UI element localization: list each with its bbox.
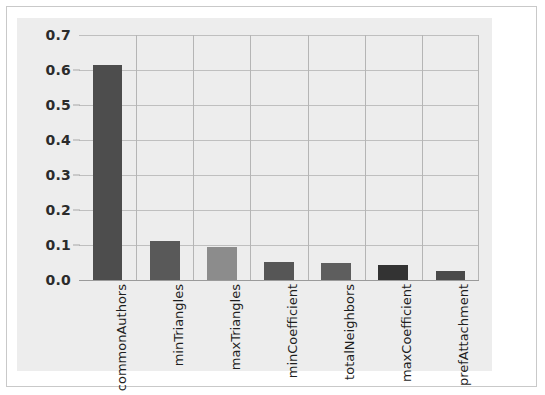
x-tick-label-maxCoefficient: maxCoefficient [399, 284, 414, 382]
y-tick-label: 0.3 [46, 167, 71, 183]
y-tick-label: 0.6 [46, 62, 71, 78]
x-tick-label-totalNeighbors: totalNeighbors [342, 284, 357, 380]
y-tick-label: 0.4 [46, 132, 71, 148]
y-tick-mark [73, 70, 80, 71]
x-gridline [308, 35, 309, 280]
x-tick-label-minTriangles: minTriangles [171, 284, 186, 366]
y-gridline [79, 175, 479, 176]
bar-minCoefficient[interactable] [264, 262, 294, 280]
y-gridline [79, 245, 479, 246]
x-tick-label-commonAuthors: commonAuthors [114, 284, 129, 391]
page-sheet: 0.00.10.20.30.40.50.60.7 commonAuthorsmi… [6, 6, 537, 387]
y-tick-mark [73, 245, 80, 246]
x-axis-labels: commonAuthorsminTrianglesmaxTrianglesmin… [79, 284, 479, 370]
x-gridline [250, 35, 251, 280]
bar-maxTriangles[interactable] [207, 247, 237, 280]
y-gridline [79, 210, 479, 211]
x-gridline [193, 35, 194, 280]
plot-area [79, 35, 479, 280]
x-gridline [478, 35, 479, 280]
y-axis: 0.00.10.20.30.40.50.60.7 [17, 35, 71, 280]
x-gridline [422, 35, 423, 280]
y-tick-mark [73, 175, 80, 176]
y-gridline [79, 105, 479, 106]
y-gridline [79, 35, 479, 36]
y-tick-mark [73, 140, 80, 141]
y-tick-label: 0.5 [46, 97, 71, 113]
x-tick-label-maxTriangles: maxTriangles [228, 284, 243, 370]
y-tick-mark [73, 210, 80, 211]
x-gridline [136, 35, 137, 280]
y-gridline [79, 70, 479, 71]
bar-minTriangles[interactable] [150, 241, 180, 280]
y-tick-label: 0.0 [46, 272, 71, 288]
bar-prefAttachment[interactable] [436, 271, 466, 280]
x-tick-label-minCoefficient: minCoefficient [285, 284, 300, 378]
chart-figure: 0.00.10.20.30.40.50.60.7 commonAuthorsmi… [17, 18, 492, 371]
bar-totalNeighbors[interactable] [321, 263, 351, 281]
bar-maxCoefficient[interactable] [378, 265, 408, 280]
y-gridline [79, 280, 479, 281]
x-gridline [365, 35, 366, 280]
y-tick-label: 0.2 [46, 202, 71, 218]
bar-commonAuthors[interactable] [93, 65, 123, 280]
y-tick-label: 0.7 [46, 27, 71, 43]
y-tick-mark [73, 105, 80, 106]
x-tick-label-prefAttachment: prefAttachment [456, 284, 471, 386]
y-gridline [79, 140, 479, 141]
y-tick-label: 0.1 [46, 237, 71, 253]
